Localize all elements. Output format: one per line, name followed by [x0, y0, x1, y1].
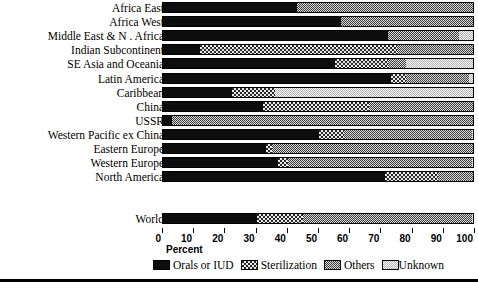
bar-segment-orals-or-iud — [163, 214, 257, 223]
bar-row-latin-america: Latin America — [0, 72, 478, 86]
stacked-bar — [162, 58, 474, 69]
x-axis-tick-label: 20 — [212, 233, 224, 244]
bar-segment-others — [344, 130, 472, 139]
legend-item-sterilization: Sterilization — [241, 259, 317, 271]
bar-row-label: China — [137, 100, 164, 114]
stacked-bar — [162, 115, 474, 126]
bar-segment-others — [388, 59, 407, 68]
bar-row-label: Africa West — [109, 15, 164, 29]
bar-row-label: Latin America — [98, 72, 164, 86]
legend-item-unknown: Unknown — [382, 259, 444, 271]
x-axis-tick-label: 10 — [181, 233, 193, 244]
bar-row-label: North America — [95, 170, 164, 184]
x-axis-tick-label: 40 — [275, 233, 287, 244]
stacked-bar — [162, 44, 474, 55]
stacked-bar — [162, 2, 474, 13]
bar-segment-sterilization — [200, 45, 397, 54]
legend-swatch — [382, 260, 399, 270]
bar-row-label: World — [136, 212, 164, 226]
legend-swatch — [153, 260, 170, 270]
x-axis-title: Percent — [166, 244, 203, 255]
bar-segment-others — [303, 214, 471, 223]
bar-row-se-asia-and-oceania: SE Asia and Oceania — [0, 57, 478, 71]
bar-segment-orals-or-iud — [163, 116, 172, 125]
x-axis-tick-label: 90 — [431, 233, 443, 244]
stacked-bar-chart: Africa EastAfrica WestMiddle East & N . … — [0, 0, 478, 286]
x-axis-tick — [193, 228, 194, 233]
bar-segment-orals-or-iud — [163, 172, 385, 181]
bar-row-label: Western Europe — [91, 156, 164, 170]
stacked-bar — [162, 101, 474, 112]
bar-row-africa-east: Africa East — [0, 1, 478, 15]
stacked-bar — [162, 129, 474, 140]
x-axis-tick — [224, 228, 225, 233]
legend-label: Orals or IUD — [173, 259, 234, 271]
bar-segment-others — [172, 116, 474, 125]
stacked-bar — [162, 87, 474, 98]
legend-label: Others — [344, 259, 375, 271]
stacked-bar — [162, 171, 474, 182]
bar-segment-others — [272, 144, 474, 153]
bar-row-eastern-europe: Eastern Europe — [0, 142, 478, 156]
x-axis-tick-label: 0 — [155, 233, 162, 244]
x-axis-tick-label: 30 — [243, 233, 255, 244]
bar-segment-others — [438, 172, 474, 181]
bar-segment-unknown — [469, 74, 474, 83]
bar-segment-others — [388, 31, 460, 40]
bar-row-ussr: USSR — [0, 114, 478, 128]
x-axis-tick — [380, 228, 381, 233]
x-axis-tick — [412, 228, 413, 233]
bar-segment-sterilization — [385, 172, 438, 181]
bar-segment-unknown — [275, 88, 474, 97]
x-axis-tick — [443, 228, 444, 233]
bar-segment-orals-or-iud — [163, 88, 232, 97]
bar-row-caribbean: Caribbean — [0, 86, 478, 100]
bar-segment-others — [341, 17, 474, 26]
bar-row-label: Middle East & N . Africa — [48, 29, 164, 43]
x-axis-tick — [318, 228, 319, 233]
bar-row-label: SE Asia and Oceania — [67, 57, 164, 71]
bar-row-label: Caribbean — [117, 86, 164, 100]
bar-row-label: Western Pacific ex China — [48, 128, 164, 142]
bar-row-indian-subcontinent: Indian Subcontinent — [0, 43, 478, 57]
bar-row-western-pacific-ex-china: Western Pacific ex China — [0, 128, 478, 142]
bar-segment-orals-or-iud — [163, 17, 341, 26]
bar-segment-sterilization — [391, 74, 407, 83]
stacked-bar — [162, 143, 474, 154]
bar-row-label: USSR — [135, 114, 164, 128]
x-axis-tick-label: 70 — [368, 233, 380, 244]
x-axis-tick-label: 50 — [306, 233, 318, 244]
bar-segment-unknown — [459, 31, 474, 40]
bar-segment-unknown — [472, 158, 474, 167]
x-axis-tick-label: 80 — [399, 233, 411, 244]
stacked-bar — [162, 30, 474, 41]
legend-swatch — [324, 260, 341, 270]
bar-row-africa-west: Africa West — [0, 15, 478, 29]
bar-row-world: World — [0, 212, 478, 226]
bar-segment-sterilization — [232, 88, 276, 97]
bar-row-label: Africa East — [112, 1, 164, 15]
stacked-bar — [162, 213, 474, 224]
bar-row-label: Indian Subcontinent — [71, 43, 164, 57]
stacked-bar — [162, 157, 474, 168]
bar-segment-sterilization — [257, 214, 304, 223]
x-axis-tick-label: 60 — [337, 233, 349, 244]
chart-legend: Orals or IUDSterilizationOthersUnknown — [153, 258, 451, 272]
bar-segment-orals-or-iud — [163, 31, 388, 40]
bar-row-china: China — [0, 100, 478, 114]
bar-segment-others — [369, 102, 474, 111]
bar-segment-unknown — [472, 130, 474, 139]
x-axis-tick — [349, 228, 350, 233]
bar-row-middle-east-n-africa: Middle East & N . Africa — [0, 29, 478, 43]
bar-segment-orals-or-iud — [163, 3, 297, 12]
bar-segment-others — [406, 74, 468, 83]
legend-item-orals-or-iud: Orals or IUD — [153, 259, 234, 271]
bar-segment-orals-or-iud — [163, 59, 335, 68]
bar-row-label: Eastern Europe — [93, 142, 164, 156]
legend-label: Sterilization — [261, 259, 317, 271]
x-axis-tick — [256, 228, 257, 233]
legend-swatch — [241, 260, 258, 270]
plot-area: Africa EastAfrica WestMiddle East & N . … — [0, 0, 478, 232]
legend-label: Unknown — [399, 259, 444, 271]
bottom-rule — [0, 279, 478, 282]
